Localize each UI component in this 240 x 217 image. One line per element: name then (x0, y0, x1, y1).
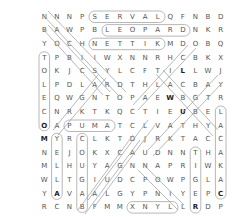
grid-cell[interactable]: Y (151, 200, 164, 214)
grid-cell[interactable]: R (164, 24, 177, 38)
grid-cell[interactable]: R (214, 24, 227, 38)
grid-cell[interactable]: N (189, 10, 202, 24)
word-search-grid[interactable]: NNNPSERVALQFNBDBAWPBLEOPARDNKRYOCHNETTIK… (38, 10, 227, 214)
grid-cell[interactable]: C (76, 132, 89, 146)
grid-cell[interactable]: A (51, 187, 64, 201)
grid-cell[interactable]: N (51, 105, 64, 119)
grid-cell[interactable]: I (88, 173, 101, 187)
grid-cell[interactable]: H (189, 119, 202, 133)
grid-cell[interactable]: L (189, 64, 202, 78)
grid-cell[interactable]: E (38, 92, 51, 106)
grid-cell[interactable]: P (63, 119, 76, 133)
grid-cell[interactable]: P (76, 10, 89, 24)
grid-cell[interactable]: B (189, 51, 202, 65)
grid-cell[interactable]: D (126, 132, 139, 146)
grid-cell[interactable]: R (214, 92, 227, 106)
grid-cell[interactable]: N (63, 10, 76, 24)
grid-cell[interactable]: L (76, 78, 89, 92)
grid-cell[interactable]: U (139, 146, 152, 160)
grid-cell[interactable]: P (51, 51, 64, 65)
grid-cell[interactable]: F (177, 10, 190, 24)
grid-cell[interactable]: T (114, 119, 127, 133)
grid-cell[interactable]: V (126, 10, 139, 24)
grid-cell[interactable]: N (38, 10, 51, 24)
grid-cell[interactable]: E (164, 105, 177, 119)
grid-cell[interactable]: T (126, 37, 139, 51)
grid-cell[interactable]: D (177, 24, 190, 38)
grid-cell[interactable]: Y (51, 132, 64, 146)
grid-cell[interactable]: N (139, 160, 152, 174)
grid-cell[interactable]: C (114, 146, 127, 160)
grid-cell[interactable]: R (151, 132, 164, 146)
grid-cell[interactable]: E (101, 37, 114, 51)
grid-cell[interactable]: F (139, 64, 152, 78)
grid-cell[interactable]: T (189, 146, 202, 160)
grid-cell[interactable]: X (126, 200, 139, 214)
grid-cell[interactable]: M (164, 37, 177, 51)
grid-cell[interactable]: A (76, 187, 89, 201)
grid-cell[interactable]: C (126, 173, 139, 187)
grid-cell[interactable]: S (88, 10, 101, 24)
grid-cell[interactable]: C (214, 132, 227, 146)
grid-cell[interactable]: L (177, 64, 190, 78)
grid-cell[interactable]: K (101, 105, 114, 119)
grid-cell[interactable]: T (126, 78, 139, 92)
grid-cell[interactable]: K (202, 51, 215, 65)
grid-cell[interactable]: R (38, 200, 51, 214)
grid-cell[interactable]: C (38, 105, 51, 119)
grid-cell[interactable]: D (114, 173, 127, 187)
grid-cell[interactable]: T (139, 105, 152, 119)
grid-cell[interactable]: O (38, 64, 51, 78)
grid-cell[interactable]: B (189, 78, 202, 92)
grid-cell[interactable]: H (76, 37, 89, 51)
grid-cell[interactable]: N (126, 51, 139, 65)
grid-cell[interactable]: W (38, 173, 51, 187)
grid-cell[interactable]: M (88, 119, 101, 133)
grid-cell[interactable]: A (189, 132, 202, 146)
grid-cell[interactable]: C (51, 200, 64, 214)
grid-cell[interactable]: I (189, 160, 202, 174)
grid-cell[interactable]: T (114, 37, 127, 51)
grid-cell[interactable]: C (126, 105, 139, 119)
grid-cell[interactable]: P (164, 160, 177, 174)
grid-cell[interactable]: P (214, 200, 227, 214)
grid-cell[interactable]: H (63, 160, 76, 174)
grid-cell[interactable]: Q (164, 10, 177, 24)
grid-cell[interactable]: K (51, 64, 64, 78)
grid-cell[interactable]: J (139, 132, 152, 146)
grid-cell[interactable]: Q (214, 37, 227, 51)
grid-cell[interactable]: N (88, 92, 101, 106)
grid-cell[interactable]: M (114, 200, 127, 214)
grid-cell[interactable]: D (63, 78, 76, 92)
grid-cell[interactable]: O (114, 92, 127, 106)
grid-cell[interactable]: H (202, 146, 215, 160)
grid-cell[interactable]: L (139, 119, 152, 133)
grid-cell[interactable]: T (88, 105, 101, 119)
grid-cell[interactable]: G (76, 173, 89, 187)
grid-cell[interactable]: U (76, 160, 89, 174)
grid-cell[interactable]: U (76, 119, 89, 133)
grid-cell[interactable]: N (139, 200, 152, 214)
grid-cell[interactable]: L (38, 78, 51, 92)
grid-cell[interactable]: A (88, 78, 101, 92)
grid-cell[interactable]: P (126, 92, 139, 106)
grid-cell[interactable]: K (214, 160, 227, 174)
grid-cell[interactable]: K (76, 105, 89, 119)
grid-cell[interactable]: T (101, 92, 114, 106)
grid-cell[interactable]: N (88, 37, 101, 51)
grid-cell[interactable]: W (202, 64, 215, 78)
grid-cell[interactable]: T (38, 51, 51, 65)
grid-cell[interactable]: W (164, 173, 177, 187)
grid-cell[interactable]: V (151, 119, 164, 133)
grid-cell[interactable]: A (164, 119, 177, 133)
grid-cell[interactable]: B (88, 24, 101, 38)
grid-cell[interactable]: B (202, 10, 215, 24)
grid-cell[interactable]: N (38, 146, 51, 160)
grid-cell[interactable]: A (214, 146, 227, 160)
grid-cell[interactable]: A (88, 187, 101, 201)
grid-cell[interactable]: Y (202, 119, 215, 133)
grid-cell[interactable]: B (202, 37, 215, 51)
grid-cell[interactable]: I (164, 187, 177, 201)
grid-cell[interactable]: P (139, 173, 152, 187)
grid-cell[interactable]: D (114, 78, 127, 92)
